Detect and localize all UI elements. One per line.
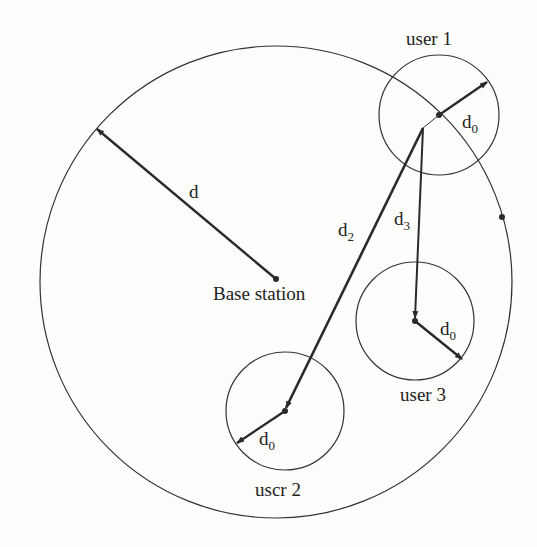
user1-connector bbox=[423, 115, 439, 128]
d2-arrow bbox=[286, 128, 423, 408]
user2-dot bbox=[282, 408, 288, 414]
base-station-dot bbox=[273, 276, 279, 282]
user2-d0-label: d0 bbox=[259, 428, 275, 453]
user2-label: uscr 2 bbox=[255, 479, 301, 500]
cell-radius-arrow bbox=[97, 129, 276, 279]
cell-radius-label: d bbox=[189, 181, 199, 202]
base-station-label: Base station bbox=[213, 283, 306, 304]
d2-label: d2 bbox=[338, 219, 354, 244]
user3-label: user 3 bbox=[400, 384, 446, 405]
boundary-dot bbox=[499, 214, 505, 220]
user3-dot bbox=[412, 318, 418, 324]
d3-label: d3 bbox=[394, 208, 410, 233]
user1-label: user 1 bbox=[406, 28, 452, 49]
user3-d0-label: d0 bbox=[440, 318, 456, 343]
coverage-diagram: user 1 d0 d Base station d2 d3 d0 user 3… bbox=[0, 0, 537, 547]
d3-arrow bbox=[415, 128, 423, 318]
user1-d0-label: d0 bbox=[462, 111, 478, 136]
